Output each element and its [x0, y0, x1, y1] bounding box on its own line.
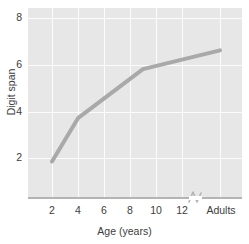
gridline-vertical-8: [130, 8, 131, 197]
x-tick-label-4: 4: [75, 204, 81, 216]
gridline-vertical-12: [182, 8, 183, 197]
x-axis-line: [28, 197, 242, 199]
gridline-horizontal-8: [28, 18, 242, 19]
gridline-vertical-4: [78, 8, 79, 197]
x-tick-label-6: 6: [101, 204, 107, 216]
gridline-horizontal-4: [28, 112, 242, 113]
x-tick-label-adults: Adults: [206, 204, 235, 216]
y-tick-text-6: 6: [16, 58, 22, 70]
x-axis-title: Age (years): [0, 225, 249, 237]
y-tick-text-8: 8: [16, 11, 22, 23]
digit-span-line-chart: 8 6 4 2 2 4 6 8 10 12 Adults Digit span …: [0, 0, 249, 244]
gridline-vertical-6: [104, 8, 105, 197]
gridline-horizontal-6: [28, 65, 242, 66]
x-tick-label-12: 12: [176, 204, 188, 216]
x-tick-label-2: 2: [49, 204, 55, 216]
y-axis-title: Digit span: [5, 52, 17, 132]
gridline-vertical-2: [52, 8, 53, 197]
gridline-vertical-adults: [220, 8, 221, 197]
y-tick-text-2: 2: [16, 151, 22, 163]
plot-area: [28, 8, 242, 197]
x-tick-label-8: 8: [127, 204, 133, 216]
gridline-vertical-10: [156, 8, 157, 197]
x-tick-label-10: 10: [150, 204, 162, 216]
y-tick-text-4: 4: [16, 105, 22, 117]
gridline-horizontal-2: [28, 158, 242, 159]
